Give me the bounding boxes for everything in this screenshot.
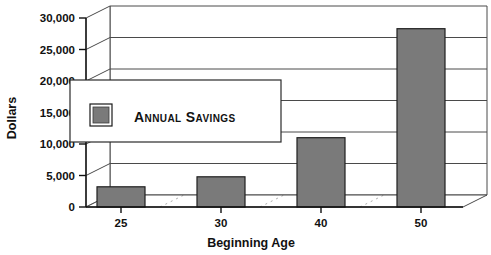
legend-label-annual-savings: Annual Savings	[134, 109, 236, 125]
y-tick-label-0: 0	[69, 201, 75, 213]
legend-swatch-annual-savings	[93, 107, 109, 123]
chart-canvas: 30,000 25,000 20,000 15,000 10,000 5,000…	[0, 0, 491, 255]
bar-group-30	[197, 177, 245, 207]
x-axis-ticks	[121, 207, 421, 213]
bar-25	[97, 187, 145, 207]
legend: Annual Savings	[70, 80, 281, 142]
x-tick-label-30: 30	[215, 217, 228, 229]
bar-40	[297, 138, 345, 207]
y-axis-title: Dollars	[5, 97, 19, 139]
x-tick-label-25: 25	[115, 217, 128, 229]
y-tick-label-25000: 25,000	[40, 44, 75, 56]
bar-group-50	[397, 29, 445, 207]
bar-50	[397, 29, 445, 207]
bar-chart: 30,000 25,000 20,000 15,000 10,000 5,000…	[0, 0, 491, 255]
bar-group-40	[297, 138, 345, 207]
x-tick-label-50: 50	[415, 217, 428, 229]
y-tick-label-30000: 30,000	[40, 12, 75, 24]
y-tick-label-5000: 5,000	[46, 170, 75, 182]
x-tick-label-40: 40	[315, 217, 328, 229]
bar-30	[197, 177, 245, 207]
x-axis-title: Beginning Age	[207, 236, 295, 250]
bar-group-25	[97, 187, 145, 207]
